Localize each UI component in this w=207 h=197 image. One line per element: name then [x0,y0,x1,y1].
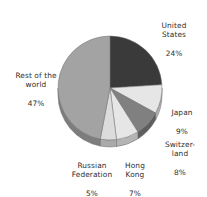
pie-slice-side-russian-federation [100,139,116,147]
pie-top-face [58,36,162,140]
pie-slice-united-states [110,36,162,88]
pie-chart-graphic [0,0,207,197]
pie-slice-rest-of-the-world [58,36,110,139]
pie-chart: United States 24% Japan 9% Switzer- land… [0,0,207,197]
